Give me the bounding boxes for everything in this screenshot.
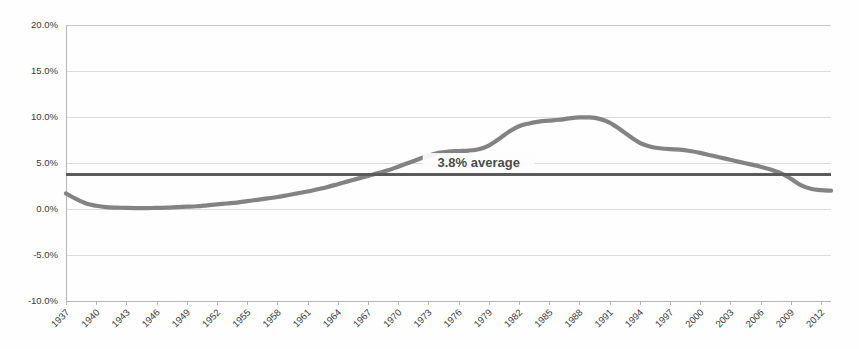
x-tick-label: 1967 bbox=[351, 307, 374, 330]
x-tick-label: 1988 bbox=[562, 307, 585, 330]
x-tick-label: 1961 bbox=[290, 307, 313, 330]
x-tick-label: 2006 bbox=[743, 307, 766, 330]
x-tick-label: 2012 bbox=[804, 307, 827, 330]
y-tick-label: -5.0% bbox=[33, 249, 58, 260]
x-tick-label: 1973 bbox=[411, 307, 434, 330]
y-tick-labels: 20.0%15.0%10.0%5.0%0.0%-5.0%-10.0% bbox=[28, 19, 59, 306]
y-tick-label: 10.0% bbox=[31, 111, 58, 122]
y-tick-label: 15.0% bbox=[31, 65, 58, 76]
x-tick-label: 1991 bbox=[592, 307, 615, 330]
x-tick-label: 1955 bbox=[230, 307, 253, 330]
line-chart: 20.0%15.0%10.0%5.0%0.0%-5.0%-10.0% 19371… bbox=[0, 0, 859, 349]
x-tick-label: 1949 bbox=[169, 307, 192, 330]
x-tick-label: 1982 bbox=[502, 307, 525, 330]
y-tick-label: 0.0% bbox=[36, 203, 58, 214]
y-tick-label: 5.0% bbox=[36, 157, 58, 168]
x-tick-label: 1937 bbox=[49, 307, 72, 330]
chart-container: 20.0%15.0%10.0%5.0%0.0%-5.0%-10.0% 19371… bbox=[0, 0, 859, 349]
x-tick-label: 2000 bbox=[683, 307, 706, 330]
x-tick-label: 1994 bbox=[622, 307, 645, 330]
x-axis bbox=[66, 301, 831, 305]
x-tick-label: 1964 bbox=[320, 307, 343, 330]
x-tick-label: 1979 bbox=[471, 307, 494, 330]
x-tick-label: 1958 bbox=[260, 307, 283, 330]
x-tick-labels: 1937194019431946194919521955195819611964… bbox=[49, 307, 827, 330]
average-annotation-label: 3.8% average bbox=[437, 155, 519, 170]
x-tick-label: 2003 bbox=[713, 307, 736, 330]
x-tick-label: 1997 bbox=[653, 307, 676, 330]
x-tick-label: 1970 bbox=[381, 307, 404, 330]
x-tick-label: 1946 bbox=[139, 307, 162, 330]
x-tick-label: 1976 bbox=[441, 307, 464, 330]
y-tick-label: 20.0% bbox=[31, 19, 58, 30]
x-tick-label: 2009 bbox=[773, 307, 796, 330]
y-tick-label: -10.0% bbox=[28, 295, 59, 306]
x-tick-label: 1943 bbox=[109, 307, 132, 330]
x-tick-label: 1985 bbox=[532, 307, 555, 330]
x-tick-label: 1952 bbox=[200, 307, 223, 330]
x-tick-label: 1940 bbox=[79, 307, 102, 330]
